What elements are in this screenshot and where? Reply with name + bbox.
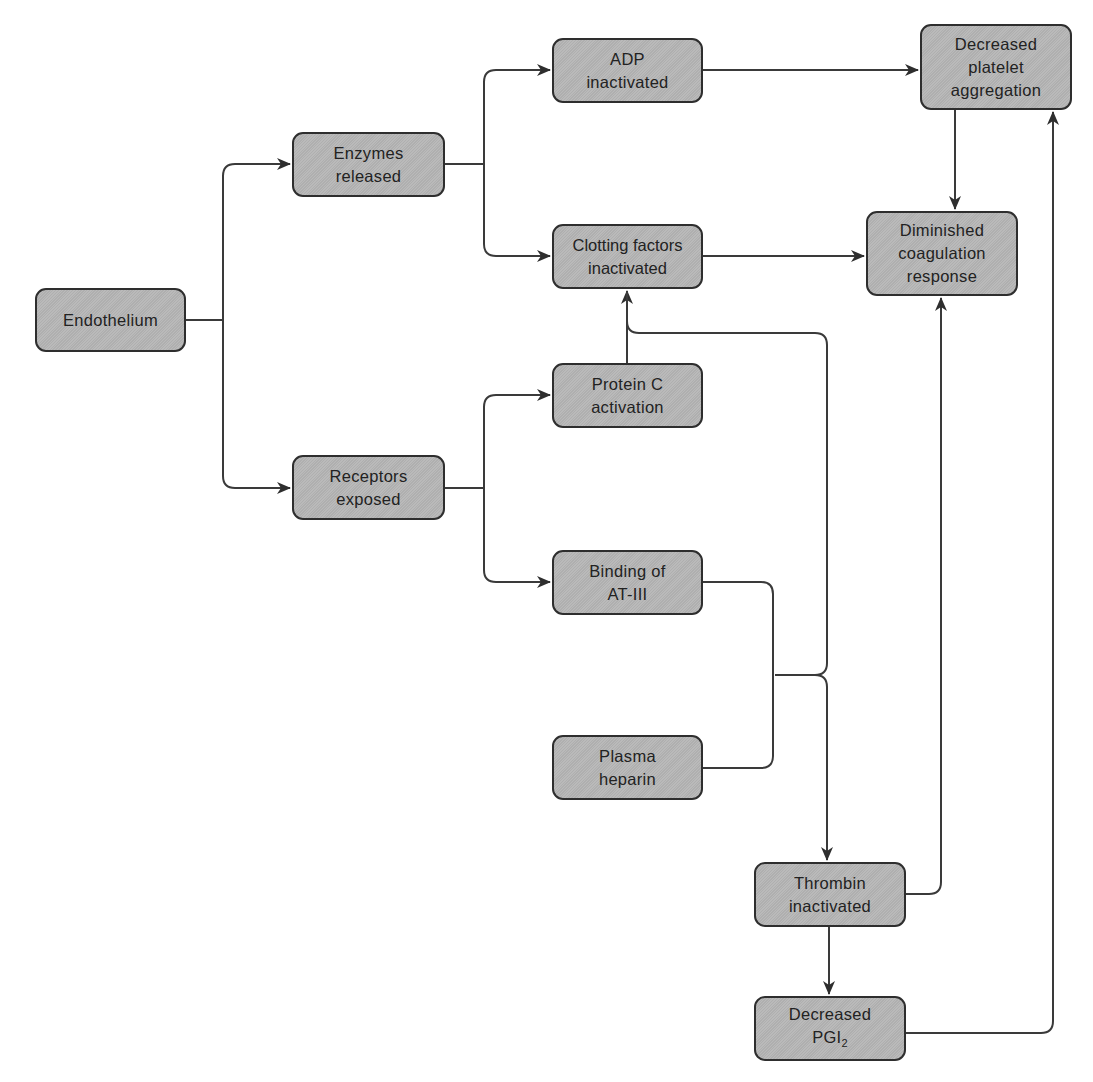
node-label-subscript: 2	[841, 1037, 847, 1049]
node-label: Protein C activation	[591, 373, 664, 419]
edge-receptors-binding	[484, 488, 550, 582]
node-adp-inactivated: ADP inactivated	[552, 38, 703, 103]
node-label: Decreased platelet aggregation	[951, 33, 1041, 102]
edge-thrombin-diminished	[906, 298, 941, 894]
node-label: ADP inactivated	[586, 48, 668, 94]
node-protein-c-activation: Protein C activation	[552, 363, 703, 428]
node-label: Receptors exposed	[330, 465, 408, 511]
node-label: Decreased PGI2	[789, 1003, 872, 1055]
edge-enzymes-clotting	[484, 164, 550, 256]
node-diminished-coagulation-response: Diminished coagulation response	[866, 211, 1018, 296]
node-binding-of-at-iii: Binding of AT-III	[552, 550, 703, 615]
edge-binding-bracket	[703, 582, 773, 675]
edge-bracket-junction	[775, 663, 827, 675]
connector-lines	[0, 0, 1093, 1082]
node-label: Thrombin inactivated	[789, 872, 871, 918]
edge-receptors-proteinc	[445, 395, 550, 488]
flow-diagram: Endothelium Enzymes released Receptors e…	[0, 0, 1093, 1082]
edge-endothelium-receptors	[223, 320, 290, 488]
node-label: Clotting factors inactivated	[572, 234, 682, 280]
node-label-main: Decreased PGI	[789, 1005, 872, 1046]
node-label: Plasma heparin	[599, 745, 656, 791]
node-label: Binding of AT-III	[589, 560, 665, 606]
edge-endothelium-enzymes	[186, 164, 290, 320]
node-endothelium: Endothelium	[35, 288, 186, 352]
node-decreased-platelet-aggregation: Decreased platelet aggregation	[920, 24, 1072, 110]
edge-enzymes-adp	[445, 70, 550, 164]
node-clotting-factors-inactivated: Clotting factors inactivated	[552, 224, 703, 289]
node-decreased-pgi2: Decreased PGI2	[754, 996, 906, 1061]
edge-heparin-bracket	[703, 675, 773, 768]
node-enzymes-released: Enzymes released	[292, 132, 445, 197]
node-label: Endothelium	[63, 309, 158, 332]
node-label: Enzymes released	[334, 142, 404, 188]
node-thrombin-inactivated: Thrombin inactivated	[754, 862, 906, 927]
edge-junction-thrombin	[815, 675, 827, 860]
node-receptors-exposed: Receptors exposed	[292, 455, 445, 520]
node-label: Diminished coagulation response	[898, 219, 986, 288]
node-plasma-heparin: Plasma heparin	[552, 735, 703, 800]
